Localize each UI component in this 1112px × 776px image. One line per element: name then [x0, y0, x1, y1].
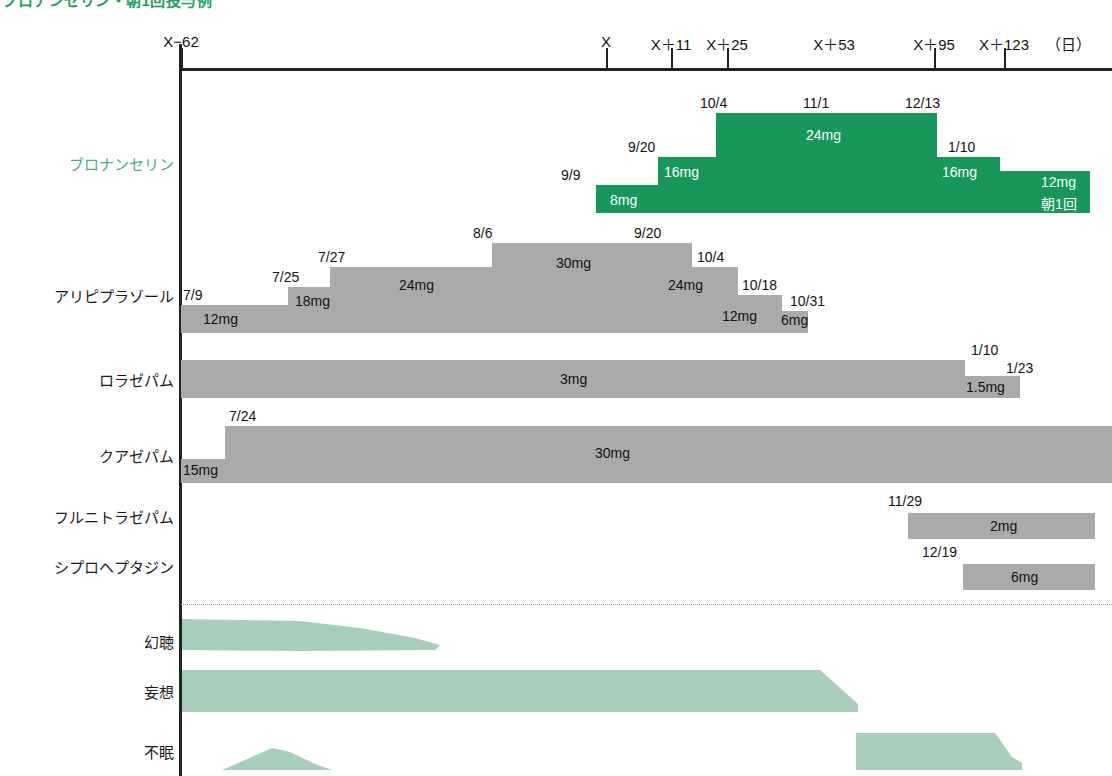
axis-label-x-plus-95: X＋95 [913, 33, 955, 54]
aripiprazole-date-9-20: 9/20 [634, 225, 661, 241]
lorazepam-dose-1-5mg: 1.5mg [966, 379, 1005, 395]
flunitrazepam-dose-2mg: 2mg [990, 518, 1017, 534]
aripiprazole-date-7-27: 7/27 [318, 249, 345, 265]
axis-unit-label: （日） [1046, 33, 1091, 54]
insomnia-waveform-early [222, 748, 332, 770]
aripiprazole-dose-12mg-taper: 12mg [722, 308, 757, 324]
blonanserin-dose-24mg: 24mg [806, 127, 841, 143]
aripiprazole-date-10-4: 10/4 [697, 249, 724, 265]
cyproheptadine-date-12-19: 12/19 [922, 544, 957, 560]
aripiprazole-date-8-6: 8/6 [473, 225, 492, 241]
blonanserin-dose-8mg: 8mg [610, 192, 637, 208]
hallucination-waveform [182, 619, 440, 651]
aripiprazole-dose-12mg: 12mg [203, 311, 238, 327]
row-label-cyproheptadine: シプロヘプタジン [54, 556, 174, 577]
aripiprazole-date-10-31: 10/31 [790, 293, 825, 309]
insomnia-waveform-late [856, 733, 1022, 770]
y-axis-line [179, 44, 182, 776]
blonanserin-dose-12mg: 12mg [1041, 174, 1076, 190]
axis-tick [606, 48, 608, 69]
row-label-flunitrazepam: フルニトラゼパム [54, 506, 174, 527]
quazepam-dose-15mg: 15mg [183, 462, 218, 478]
row-label-blonanserin: ブロナンセリン [69, 153, 174, 174]
aripiprazole-date-7-9: 7/9 [183, 287, 202, 303]
row-label-insomnia: 不眠 [144, 741, 174, 762]
axis-label-x: X [601, 33, 611, 50]
blonanserin-date-10-4: 10/4 [700, 95, 727, 111]
row-label-hallucination: 幻聴 [144, 631, 174, 652]
axis-label-x-plus-123: X＋123 [979, 33, 1029, 54]
lorazepam-date-1-10: 1/10 [971, 342, 998, 358]
quazepam-dose-30mg: 30mg [595, 445, 630, 461]
blonanserin-dose-16mg-taper: 16mg [942, 164, 977, 180]
aripiprazole-date-7-25: 7/25 [272, 269, 299, 285]
blonanserin-date-12-13: 12/13 [905, 95, 940, 111]
blonanserin-date-9-9: 9/9 [561, 167, 580, 183]
aripiprazole-dose-24mg: 24mg [399, 277, 434, 293]
row-label-delusion: 妄想 [144, 681, 174, 702]
section-divider [181, 604, 1112, 605]
aripiprazole-dose-18mg: 18mg [295, 293, 330, 309]
aripiprazole-dose-24mg-taper: 24mg [668, 277, 703, 293]
quazepam-date-7-24: 7/24 [229, 408, 256, 424]
quazepam-bar-30mg [225, 426, 1112, 483]
axis-label-x-plus-53: X＋53 [813, 33, 855, 54]
axis-label-x-minus-62: X−62 [163, 33, 198, 50]
blonanserin-date-9-20: 9/20 [628, 139, 655, 155]
axis-tick [181, 48, 183, 69]
aripiprazole-date-10-18: 10/18 [742, 277, 777, 293]
axis-label-x-plus-11: X＋11 [651, 33, 692, 54]
lorazepam-date-1-23: 1/23 [1006, 360, 1033, 376]
chart-title: ブロナンセリン・朝1回投与例 [2, 0, 212, 10]
flunitrazepam-date-11-29: 11/29 [888, 493, 922, 509]
blonanserin-date-1-10: 1/10 [948, 139, 975, 155]
aripiprazole-dose-6mg: 6mg [781, 312, 808, 328]
blonanserin-dose-16mg: 16mg [664, 164, 699, 180]
row-label-quazepam: クアゼパム [99, 445, 174, 466]
cyproheptadine-dose-6mg: 6mg [1011, 569, 1038, 585]
aripiprazole-dose-30mg: 30mg [556, 255, 591, 271]
lorazepam-dose-3mg: 3mg [560, 371, 587, 387]
row-label-lorazepam: ロラゼパム [99, 369, 174, 390]
blonanserin-date-11-1: 11/1 [803, 95, 829, 111]
x-axis-line [181, 68, 1112, 71]
axis-label-x-plus-25: X＋25 [706, 33, 748, 54]
aripiprazole-bar-30mg [492, 243, 692, 333]
blonanserin-note-morning-once: 朝1回 [1041, 193, 1077, 213]
row-label-aripiprazole: アリピプラゾール [54, 285, 174, 306]
chart-canvas: ブロナンセリン・朝1回投与例 X−62 X X＋11 X＋25 X＋53 X＋9… [0, 0, 1112, 776]
delusion-waveform [182, 670, 858, 712]
